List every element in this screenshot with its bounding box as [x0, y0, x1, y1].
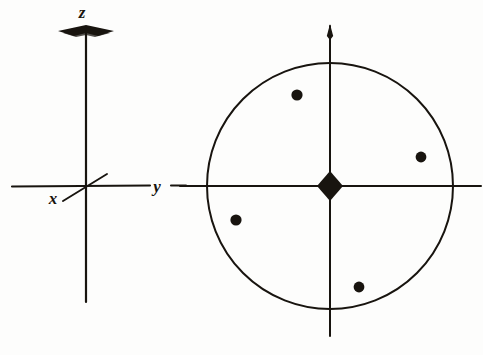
y-axis-label: y	[151, 177, 161, 196]
pole-upper-left	[291, 89, 302, 100]
left-panel-coordinate-axes: z y x	[12, 3, 186, 302]
pole-bottom	[354, 282, 365, 293]
z-axis-label: z	[78, 3, 86, 22]
right-panel-stereographic-projection	[180, 24, 481, 336]
x-axis-label: x	[48, 189, 58, 208]
figure-canvas: z y x	[0, 0, 483, 355]
center-diamond-marker	[317, 171, 343, 201]
projection-vertical-axis-arrowhead-icon	[327, 24, 333, 40]
pole-right	[416, 152, 427, 163]
y-axis-line	[12, 186, 150, 187]
figure-root: z y x	[0, 0, 483, 355]
pole-lower-left	[230, 214, 241, 225]
